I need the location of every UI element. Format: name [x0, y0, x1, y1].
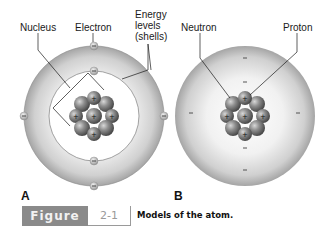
nucleus-a: + + + + +: [69, 91, 119, 141]
nucleus-b: + + + + +: [220, 91, 270, 141]
figure-caption: Models of the atom.: [137, 210, 233, 220]
svg-text:+: +: [91, 95, 97, 103]
panel-label-b: B: [174, 189, 183, 203]
atom-model-a: + + + + +: [20, 33, 168, 190]
svg-text:+: +: [260, 113, 266, 121]
svg-text:+: +: [91, 113, 97, 121]
panel-label-a: A: [21, 189, 30, 203]
svg-text:+: +: [91, 131, 97, 139]
figure-number: 2-1: [88, 206, 131, 226]
label-electron: Electron: [75, 22, 112, 33]
label-nucleus: Nucleus: [20, 22, 56, 33]
atom-model-b: + + + + +: [175, 33, 315, 186]
label-proton: Proton: [283, 22, 312, 33]
svg-text:+: +: [242, 131, 248, 139]
svg-text:+: +: [242, 95, 248, 103]
svg-text:+: +: [73, 113, 79, 121]
label-energy-levels-line3: (shells): [135, 31, 167, 42]
svg-text:+: +: [109, 113, 115, 121]
svg-text:+: +: [224, 113, 230, 121]
svg-text:+: +: [242, 113, 248, 121]
label-energy-levels-line1: Energy: [135, 9, 167, 20]
label-energy-levels-line2: levels: [135, 20, 161, 31]
label-neutron: Neutron: [181, 22, 217, 33]
figure-label-box: Figure: [22, 206, 88, 226]
